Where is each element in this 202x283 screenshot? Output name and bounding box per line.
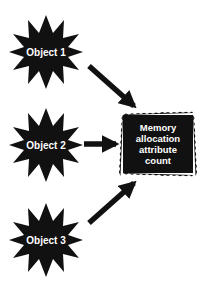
target-label-line-1: Memory [140, 122, 176, 133]
target-label-line-4: count [145, 155, 171, 166]
target-label: Memory allocation attribute count [123, 115, 193, 173]
arrow-object-1-to-target [89, 66, 134, 106]
arrow-object-3-to-target [89, 183, 134, 223]
object-2-label: Object 2 [26, 140, 65, 151]
target-label-line-2: allocation [136, 133, 180, 144]
object-3-label: Object 3 [26, 235, 65, 246]
object-1-label: Object 1 [26, 47, 65, 58]
target-label-line-3: attribute [139, 144, 177, 155]
